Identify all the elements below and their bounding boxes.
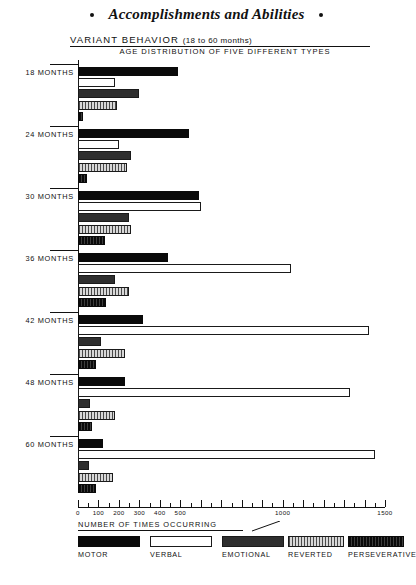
bar-motor-42mo bbox=[78, 315, 143, 324]
x-axis-tick bbox=[201, 500, 202, 507]
x-axis-tick-label: 500 bbox=[175, 509, 187, 516]
legend-swatch-motor bbox=[78, 536, 140, 547]
age-group-label: 18 MONTHS bbox=[0, 68, 74, 77]
x-axis-tick bbox=[365, 500, 366, 507]
bar-verbal-36mo bbox=[78, 264, 291, 273]
figure-subtitle: AGE DISTRIBUTION OF FIVE DIFFERENT TYPES bbox=[60, 47, 390, 56]
bar-verbal-24mo bbox=[78, 140, 119, 149]
legend-swatch-emotional bbox=[222, 536, 284, 547]
legend-item-verbal[interactable]: VERBAL bbox=[150, 536, 212, 559]
bar-verbal-42mo bbox=[78, 326, 369, 335]
x-axis-tick-label: 0 bbox=[76, 509, 80, 516]
bar-motor-36mo bbox=[78, 253, 168, 262]
legend-item-reverted[interactable]: REVERTED bbox=[288, 536, 344, 559]
x-axis-tick bbox=[109, 503, 110, 507]
running-head: Accomplishments and Abilities bbox=[0, 6, 413, 23]
legend-item-perseverative[interactable]: PERSEVERATIVE bbox=[348, 536, 416, 559]
age-group-30-months: 30 MONTHS bbox=[0, 188, 413, 250]
bar-reverted-30mo bbox=[78, 225, 131, 234]
x-axis-tick bbox=[252, 503, 253, 507]
age-group-rule bbox=[50, 188, 78, 189]
x-axis-tick bbox=[88, 503, 89, 507]
legend-item-emotional[interactable]: EMOTIONAL bbox=[222, 536, 284, 559]
bar-perseverative-36mo bbox=[78, 298, 106, 307]
legend-label: VERBAL bbox=[150, 550, 212, 559]
age-group-36-months: 36 MONTHS bbox=[0, 250, 413, 312]
figure-title: VARIANT BEHAVIOR (18 to 60 months) bbox=[70, 34, 370, 47]
age-group-label: 42 MONTHS bbox=[0, 316, 74, 325]
bar-emotional-60mo bbox=[78, 461, 89, 470]
bar-motor-30mo bbox=[78, 191, 199, 200]
age-group-rule bbox=[50, 436, 78, 437]
legend-label: REVERTED bbox=[288, 550, 344, 559]
x-axis-tick bbox=[191, 503, 192, 507]
x-axis-tick bbox=[303, 500, 304, 507]
x-axis-tick bbox=[293, 503, 294, 507]
legend-label: MOTOR bbox=[78, 550, 140, 559]
chart-plot-area: 18 MONTHS24 MONTHS30 MONTHS36 MONTHS42 M… bbox=[0, 60, 413, 500]
bar-perseverative-30mo bbox=[78, 236, 105, 245]
age-group-42-months: 42 MONTHS bbox=[0, 312, 413, 374]
bar-emotional-24mo bbox=[78, 151, 131, 160]
legend-swatch-reverted bbox=[288, 536, 344, 547]
x-axis-tick bbox=[221, 500, 222, 507]
bar-motor-48mo bbox=[78, 377, 125, 386]
x-axis-tick bbox=[375, 503, 376, 507]
x-axis-tick bbox=[262, 500, 263, 507]
bar-perseverative-60mo bbox=[78, 484, 96, 493]
x-axis-label: NUMBER OF TIMES OCCURRING bbox=[78, 520, 243, 531]
bullet-left-icon bbox=[90, 13, 94, 17]
bullet-right-icon bbox=[319, 13, 323, 17]
bar-emotional-18mo bbox=[78, 89, 139, 98]
age-group-rule bbox=[50, 312, 78, 313]
x-axis-tick bbox=[242, 500, 243, 507]
bar-perseverative-18mo bbox=[78, 112, 83, 121]
x-axis-tick bbox=[180, 500, 181, 507]
bar-emotional-42mo bbox=[78, 337, 101, 346]
bar-perseverative-24mo bbox=[78, 174, 87, 183]
bar-motor-24mo bbox=[78, 129, 189, 138]
x-axis-tick bbox=[354, 503, 355, 507]
x-axis-tick-label: 1500 bbox=[377, 509, 392, 516]
age-group-rule bbox=[50, 250, 78, 251]
x-axis-tick-label: 1000 bbox=[275, 509, 290, 516]
legend-swatch-verbal bbox=[150, 536, 212, 547]
x-axis-tick bbox=[211, 503, 212, 507]
legend-label: PERSEVERATIVE bbox=[348, 550, 416, 559]
x-axis-tick bbox=[98, 500, 99, 507]
x-axis-tick bbox=[344, 500, 345, 507]
legend-label: EMOTIONAL bbox=[222, 550, 284, 559]
x-axis-tick bbox=[78, 500, 79, 507]
age-group-rule bbox=[50, 374, 78, 375]
x-axis-tick bbox=[324, 500, 325, 507]
x-axis-tick bbox=[283, 500, 284, 507]
bar-verbal-60mo bbox=[78, 450, 375, 459]
bar-motor-18mo bbox=[78, 67, 178, 76]
x-axis-tick bbox=[272, 503, 273, 507]
bar-reverted-60mo bbox=[78, 473, 113, 482]
chart-legend: MOTORVERBALEMOTIONALREVERTEDPERSEVERATIV… bbox=[0, 536, 413, 566]
bar-verbal-18mo bbox=[78, 78, 115, 87]
bar-reverted-36mo bbox=[78, 287, 129, 296]
bar-reverted-48mo bbox=[78, 411, 115, 420]
legend-item-motor[interactable]: MOTOR bbox=[78, 536, 140, 559]
x-axis-tick bbox=[170, 503, 171, 507]
bar-verbal-30mo bbox=[78, 202, 201, 211]
x-axis: NUMBER OF TIMES OCCURRING 01002003004005… bbox=[0, 497, 413, 521]
bar-emotional-36mo bbox=[78, 275, 115, 284]
x-axis-tick bbox=[385, 500, 386, 507]
bar-perseverative-42mo bbox=[78, 360, 96, 369]
age-group-60-months: 60 MONTHS bbox=[0, 436, 413, 498]
age-group-48-months: 48 MONTHS bbox=[0, 374, 413, 436]
age-group-label: 60 MONTHS bbox=[0, 440, 74, 449]
x-axis-tick-label: 100 bbox=[93, 509, 105, 516]
x-axis-tick bbox=[232, 503, 233, 507]
figure-title-range: (18 to 60 months) bbox=[183, 36, 253, 45]
age-group-label: 36 MONTHS bbox=[0, 254, 74, 263]
age-group-24-months: 24 MONTHS bbox=[0, 126, 413, 188]
x-axis-tick bbox=[150, 503, 151, 507]
x-axis-tick bbox=[313, 503, 314, 507]
x-axis-baseline bbox=[78, 507, 385, 508]
bar-emotional-48mo bbox=[78, 399, 90, 408]
x-axis-tick bbox=[139, 500, 140, 507]
